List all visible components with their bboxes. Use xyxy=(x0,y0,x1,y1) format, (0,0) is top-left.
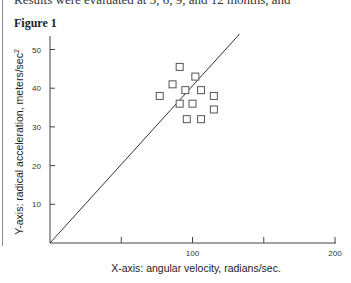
data-point xyxy=(198,87,205,94)
data-point xyxy=(176,100,183,107)
data-point xyxy=(183,116,190,123)
scatter-chart: 100200 1020304050 X-axis: angular veloci… xyxy=(0,0,351,283)
y-tick-label: 30 xyxy=(32,123,41,132)
y-tick-label: 50 xyxy=(32,46,41,55)
y-tick-label: 20 xyxy=(32,162,41,171)
data-point xyxy=(210,92,217,99)
y-tick-label: 10 xyxy=(32,200,41,209)
data-point xyxy=(210,106,217,113)
x-axis-title: X-axis: angular velocity, radians/sec. xyxy=(111,262,281,274)
reference-line-path xyxy=(50,34,240,243)
data-points xyxy=(156,63,217,122)
data-point xyxy=(156,92,163,99)
y-tick-label: 40 xyxy=(32,84,41,93)
axes xyxy=(50,36,336,243)
reference-line xyxy=(50,34,240,243)
y-ticks: 1020304050 xyxy=(32,46,55,210)
y-axis-title: Y-axis: radical acceleration, meters/sec… xyxy=(13,49,25,235)
x-tick-label: 200 xyxy=(328,249,342,258)
x-tick-label: 100 xyxy=(186,249,200,258)
data-point xyxy=(192,73,199,80)
data-point xyxy=(198,116,205,123)
data-point xyxy=(176,63,183,70)
data-point xyxy=(169,81,176,88)
x-ticks: 100200 xyxy=(121,237,342,258)
data-point xyxy=(189,100,196,107)
data-point xyxy=(182,87,189,94)
